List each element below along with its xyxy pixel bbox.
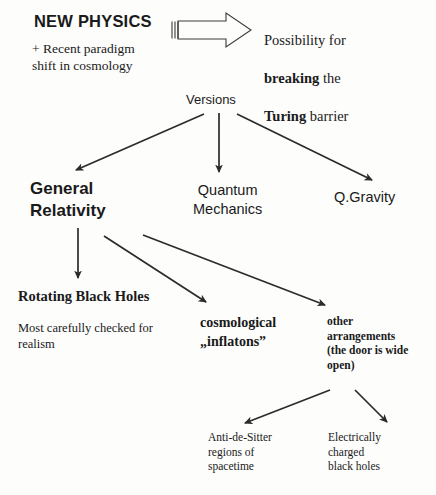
node-versions: Versions [186, 92, 236, 107]
edge-gr-to-other-arrangements [143, 235, 325, 305]
physics-flow-diagram: NEW PHYSICS + Recent paradigm shift in c… [0, 0, 436, 495]
edge-other-to-anti-de-sitter [245, 390, 330, 423]
node-electrically-charged-black-holes: Electrically charged black holes [328, 430, 381, 474]
node-anti-de-sitter-regions: Anti-de-Sitter regions of spacetime [208, 430, 272, 474]
node-cosmological-inflatons: cosmological „inflatons” [200, 313, 276, 351]
node-rotating-black-holes: Rotating Black Holes [18, 288, 149, 305]
node-general-relativity: General Relativity [30, 178, 106, 222]
edge-versions-to-general-relativity [76, 114, 204, 170]
node-rotating-black-holes-note: Most carefully checked for realism [18, 320, 153, 352]
node-other-arrangements: other arrangements (the door is wide ope… [327, 314, 408, 372]
node-quantum-mechanics: Quantum Mechanics [193, 181, 262, 219]
edge-other-to-electrically-charged [355, 390, 387, 422]
connector-edges [0, 0, 436, 495]
edge-versions-to-q-gravity [237, 114, 372, 180]
node-q-gravity: Q.Gravity [334, 189, 395, 205]
